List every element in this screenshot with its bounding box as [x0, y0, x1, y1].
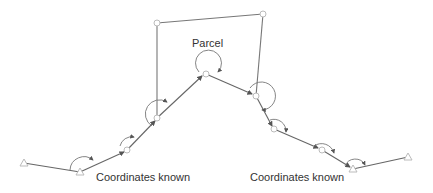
angle-arc — [196, 50, 222, 72]
parcel-label: Parcel — [192, 37, 223, 49]
vertices — [20, 11, 412, 175]
traverse-station-icon — [271, 126, 277, 132]
traverse-diagram: Parcel Coordinates known Coordinates kno… — [0, 0, 433, 193]
parcel-boundary — [157, 14, 263, 118]
traverse-line — [24, 74, 408, 172]
parcel-corner-icon — [260, 11, 266, 17]
traverse-station-icon — [124, 147, 130, 153]
traverse-station-icon — [203, 71, 209, 77]
traverse-station-icon — [253, 93, 259, 99]
known-coordinates-label-left: Coordinates known — [96, 171, 190, 183]
angle-arc — [345, 159, 365, 166]
known-point-triangle-icon — [404, 153, 412, 160]
known-point-triangle-icon — [20, 159, 28, 166]
traverse-station-icon — [319, 147, 325, 153]
traverse-station-icon — [154, 115, 160, 121]
parcel-corner-icon — [154, 20, 160, 26]
angle-arc — [145, 100, 167, 126]
known-coordinates-label-right: Coordinates known — [250, 171, 344, 183]
